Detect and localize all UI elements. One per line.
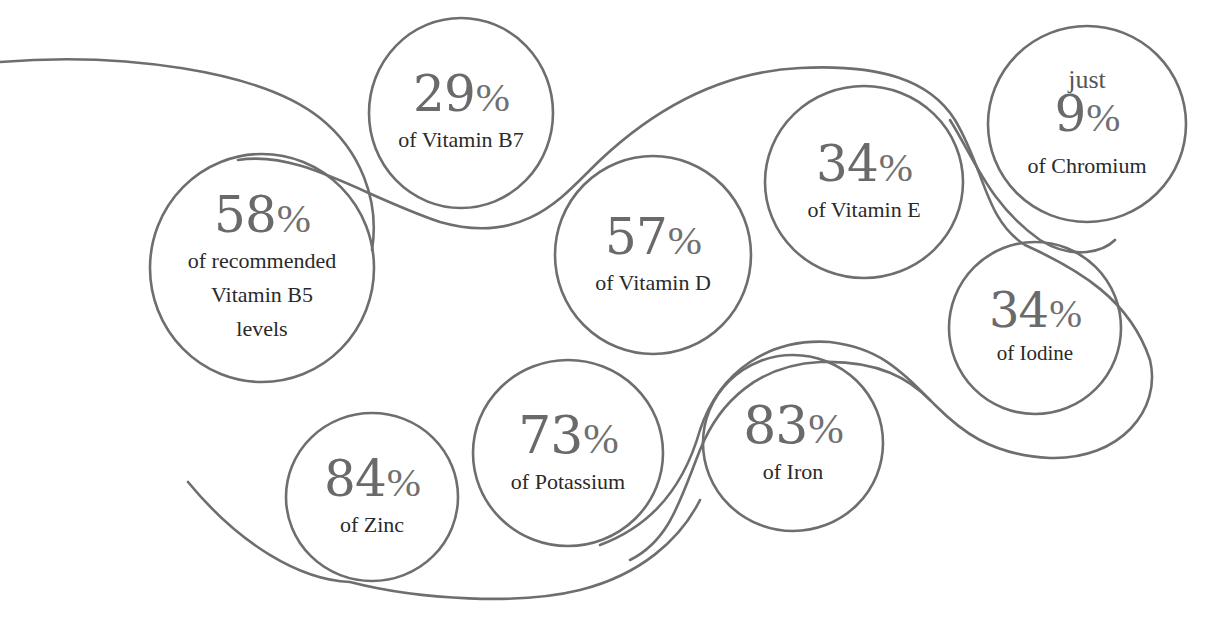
percentage-value: 83% (743, 399, 843, 451)
percentage-value: 29% (413, 69, 509, 119)
bubble-vitamin-b7: 29% of Vitamin B7 (369, 20, 553, 204)
nutrient-label: of Vitamin E (807, 193, 920, 226)
nutrient-label: of Iron (763, 455, 823, 488)
nutrient-label: of Potassium (511, 465, 625, 498)
bubble-vitamin-b5: 58% of recommended Vitamin B5 levels (150, 154, 374, 382)
percentage-value: 84% (324, 454, 420, 504)
nutrient-label: of Vitamin B7 (398, 123, 523, 156)
nutrient-label: of Zinc (340, 508, 404, 541)
value-number: 83 (743, 395, 807, 455)
percentage-value: 58% (214, 190, 310, 240)
percentage-value: 34% (989, 286, 1081, 334)
value-number: 57 (605, 208, 667, 266)
nutrient-bubble-infographic: 58% of recommended Vitamin B5 levels 29%… (0, 0, 1214, 629)
value-number: 34 (816, 135, 878, 193)
bubble-zinc: 84% of Zinc (286, 413, 458, 581)
nutrient-label: of recommended Vitamin B5 levels (188, 244, 336, 346)
percentage-value: 73% (518, 409, 618, 461)
nutrient-label: of Vitamin D (595, 266, 711, 299)
bubble-chromium: just 9% of Chromium (988, 26, 1186, 222)
percent-symbol: % (1049, 292, 1081, 336)
percent-symbol: % (1086, 94, 1119, 140)
bubble-iodine: 34% of Iodine (949, 242, 1121, 414)
bubble-vitamin-e: 34% of Vitamin E (765, 86, 963, 278)
nutrient-label: of Chromium (1027, 149, 1146, 182)
percent-symbol: % (476, 74, 509, 120)
percentage-value: 34% (816, 139, 912, 189)
label-line: of recommended (188, 244, 336, 278)
value-number: 84 (324, 450, 386, 508)
value-number: 73 (518, 405, 582, 465)
value-number: 9 (1055, 85, 1086, 143)
value-number: 34 (989, 282, 1048, 338)
value-number: 58 (214, 186, 276, 244)
value-number: 29 (413, 65, 475, 123)
bubble-vitamin-d: 57% of Vitamin D (555, 156, 751, 354)
percent-symbol: % (879, 144, 912, 190)
percent-symbol: % (387, 459, 420, 505)
percentage-value: 57% (605, 212, 701, 262)
percent-symbol: % (583, 415, 618, 462)
percent-symbol: % (808, 405, 843, 452)
bubble-iron: 83% of Iron (703, 355, 883, 531)
percent-symbol: % (668, 217, 701, 263)
label-line: levels (188, 312, 336, 346)
percent-symbol: % (277, 195, 310, 241)
label-line: Vitamin B5 (188, 278, 336, 312)
percentage-value: 9% (1055, 89, 1120, 139)
nutrient-label: of Iodine (997, 338, 1073, 370)
bubble-potassium: 73% of Potassium (473, 360, 663, 546)
